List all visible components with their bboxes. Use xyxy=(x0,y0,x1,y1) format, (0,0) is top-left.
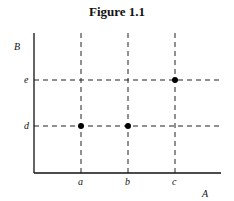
chart-plot xyxy=(0,0,234,201)
y-tick-d: d xyxy=(24,121,29,131)
point-a-d xyxy=(78,123,84,129)
x-tick-b: b xyxy=(125,177,130,187)
point-b-d xyxy=(125,123,131,129)
data-points xyxy=(78,77,178,129)
x-tick-a: a xyxy=(78,177,83,187)
reference-lines xyxy=(34,33,221,173)
y-axis-label: B xyxy=(14,42,20,52)
x-axis-label: A xyxy=(202,189,208,199)
y-tick-e: e xyxy=(24,75,28,85)
x-tick-c: c xyxy=(172,177,176,187)
point-c-e xyxy=(172,77,178,83)
